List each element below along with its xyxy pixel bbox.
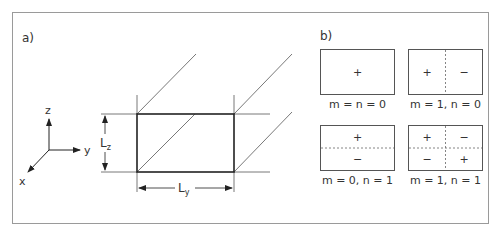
dimension-ly-label: Ly [178,181,190,197]
dimension-lz-label: Lz [100,136,111,152]
axis-z-label: z [45,104,51,117]
svg-text:−: − [459,131,468,144]
mode-m1-n0: + − m = 1, n = 0 [409,50,483,112]
mode-caption: m = 1, n = 1 [410,174,481,187]
mode-m1-n1: + − − + m = 1, n = 1 [409,126,483,188]
svg-text:+: + [459,153,468,166]
svg-text:+: + [353,131,362,144]
svg-text:+: + [422,66,431,79]
axis-y-label: y [84,144,91,157]
svg-text:−: − [422,153,431,166]
waveguide-cross-section [137,114,234,172]
mode-m0-n1: + − m = 0, n = 1 [321,126,395,188]
svg-text:−: − [459,66,468,79]
waveguide-diagram: a) z y x Lz Ly b) + [0,0,501,233]
mode-caption: m = n = 0 [329,98,386,111]
svg-text:+: + [422,131,431,144]
figure-frame [13,13,489,224]
mode-m0-n0: + m = n = 0 [321,50,395,112]
svg-text:+: + [353,66,362,79]
axes-icon [28,119,80,172]
mode-caption: m = 0, n = 1 [322,174,393,187]
mode-caption: m = 1, n = 0 [410,98,481,111]
panel-b-label: b) [320,29,332,43]
axis-x-label: x [19,175,26,188]
svg-text:−: − [353,153,362,166]
panel-a-label: a) [22,31,34,45]
